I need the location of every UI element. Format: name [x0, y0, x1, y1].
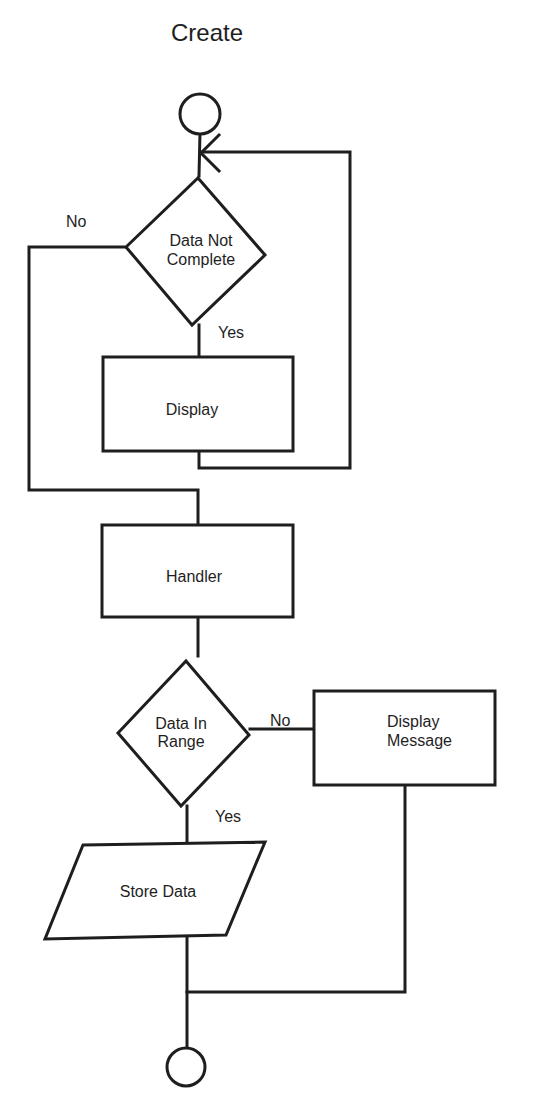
process-display-message: Display Message — [314, 691, 495, 785]
decision-label-line-1: Data Not — [169, 232, 233, 249]
process-handler: Handler — [102, 525, 293, 617]
connector-start-to-decision — [199, 133, 200, 176]
process-label: Display — [166, 401, 218, 418]
io-store-data: Store Data — [45, 842, 265, 939]
diagram-title: Create — [171, 19, 243, 46]
decision-label-line-1: Data In — [155, 715, 207, 732]
process-label-line-2: Message — [387, 732, 452, 749]
start-terminal — [180, 94, 220, 134]
process-display: Display — [103, 357, 293, 451]
process-label: Handler — [166, 568, 223, 585]
decision-label-line-2: Range — [157, 733, 204, 750]
edge-label-yes-1: Yes — [218, 324, 244, 341]
io-label: Store Data — [120, 883, 197, 900]
edge-label-no-1: No — [66, 213, 87, 230]
end-terminal — [167, 1048, 205, 1086]
flowchart-canvas: Create Data Not Complete No Yes Display — [0, 0, 548, 1110]
decision-data-not-complete: Data Not Complete — [126, 178, 265, 325]
edge-label-yes-2: Yes — [215, 808, 241, 825]
decision-data-in-range: Data In Range — [118, 661, 249, 806]
process-label-line-1: Display — [387, 713, 439, 730]
edge-label-no-2: No — [270, 712, 291, 729]
decision-label-line-2: Complete — [167, 251, 236, 268]
